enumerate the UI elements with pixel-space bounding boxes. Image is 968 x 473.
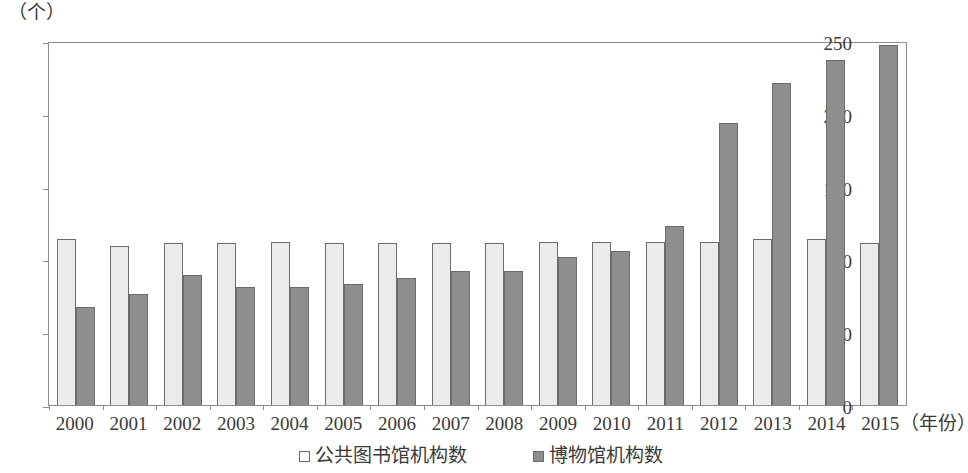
bar-group <box>638 43 692 405</box>
bar-group <box>370 43 424 405</box>
bar-public-library <box>432 243 451 405</box>
x-axis-tick-label: 2001 <box>102 410 156 440</box>
bar-group <box>317 43 371 405</box>
bar-museum <box>504 271 523 405</box>
bar-museum <box>611 251 630 405</box>
bar-public-library <box>57 239 76 405</box>
x-axis-tick-label: 2010 <box>585 410 639 440</box>
bar-museum <box>183 275 202 405</box>
x-axis-tick-label: 2015 <box>853 410 907 440</box>
bar-public-library <box>807 239 826 405</box>
x-axis-tick-label: 2012 <box>692 410 746 440</box>
x-axis-tick-label: 2009 <box>531 410 585 440</box>
x-axis-tick-label: 2011 <box>639 410 693 440</box>
bar-public-library <box>271 242 290 405</box>
bar-public-library <box>110 246 129 405</box>
bar-group <box>745 43 799 405</box>
legend-swatch-light <box>299 451 310 462</box>
x-axis-tick-label: 2004 <box>263 410 317 440</box>
bar-group <box>692 43 746 405</box>
bar-public-library <box>646 242 665 405</box>
y-axis-unit-label: （个） <box>8 2 65 24</box>
bar-group <box>478 43 532 405</box>
bar-museum <box>344 284 363 405</box>
bar-group <box>424 43 478 405</box>
plot-area: 250200150100500 <box>48 42 907 406</box>
x-axis-tick-label: 2002 <box>155 410 209 440</box>
bar-public-library <box>700 242 719 405</box>
bar-group <box>852 43 906 405</box>
bar-public-library <box>217 243 236 405</box>
bar-public-library <box>485 243 504 405</box>
bar-public-library <box>539 242 558 405</box>
bar-group <box>799 43 853 405</box>
legend-item: 公共图书馆机构数 <box>299 445 467 467</box>
x-axis-tick-label: 2005 <box>316 410 370 440</box>
bar-public-library <box>592 242 611 405</box>
bar-museum <box>129 294 148 405</box>
bar-group <box>210 43 264 405</box>
legend-swatch-dark <box>533 451 544 462</box>
bar-group <box>156 43 210 405</box>
bar-museum <box>451 271 470 405</box>
bar-groups <box>49 43 906 405</box>
bar-group <box>49 43 103 405</box>
x-axis-tick-label: 2013 <box>746 410 800 440</box>
x-axis-tick-label: 2000 <box>48 410 102 440</box>
bar-museum <box>879 45 898 405</box>
x-axis-tick-label: 2007 <box>424 410 478 440</box>
bar-public-library <box>753 239 772 405</box>
x-axis-tick-label: 2003 <box>209 410 263 440</box>
x-axis-tick-label: 2008 <box>478 410 532 440</box>
bar-public-library <box>378 243 397 405</box>
bar-museum <box>826 60 845 405</box>
bar-group <box>103 43 157 405</box>
bar-museum <box>719 123 738 405</box>
legend-label: 博物馆机构数 <box>549 445 663 467</box>
legend-item: 博物馆机构数 <box>533 445 663 467</box>
bar-museum <box>558 257 577 406</box>
bar-group <box>531 43 585 405</box>
bar-public-library <box>860 243 879 405</box>
chart-legend: 公共图书馆机构数博物馆机构数 <box>0 445 962 467</box>
x-axis-tick-labels: 2000200120022003200420052006200720082009… <box>48 410 907 440</box>
bar-public-library <box>164 243 183 405</box>
bar-group <box>263 43 317 405</box>
legend-label: 公共图书馆机构数 <box>315 445 467 467</box>
bar-museum <box>290 287 309 405</box>
bar-museum <box>397 278 416 405</box>
bar-museum <box>772 83 791 405</box>
bar-museum <box>665 226 684 405</box>
bar-museum <box>236 287 255 405</box>
x-axis-tick-label: 2006 <box>370 410 424 440</box>
bar-group <box>585 43 639 405</box>
bar-public-library <box>325 243 344 405</box>
x-axis-tick-label: 2014 <box>800 410 854 440</box>
bar-museum <box>76 307 95 405</box>
x-axis-unit-label: （年份） <box>900 410 968 438</box>
